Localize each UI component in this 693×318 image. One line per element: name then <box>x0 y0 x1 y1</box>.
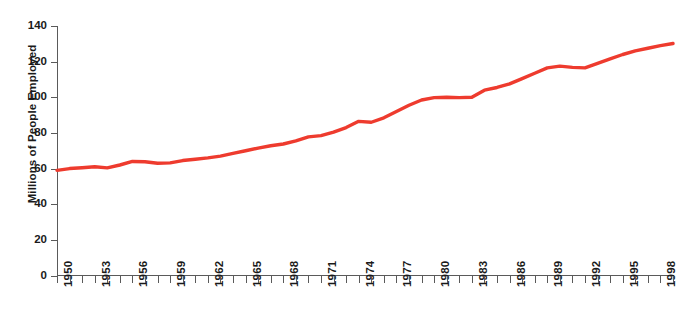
data-series-line <box>0 0 693 318</box>
series-line <box>57 43 673 170</box>
employment-line-chart: Millions of People Employed 020406080100… <box>0 0 693 318</box>
